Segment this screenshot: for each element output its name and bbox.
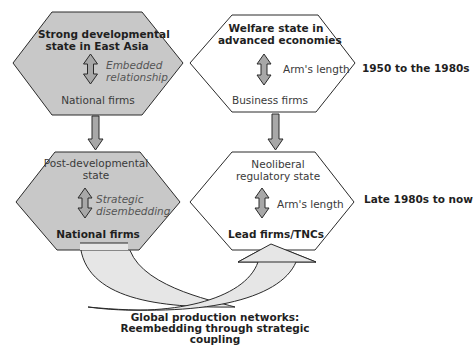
down-arrow-right — [268, 114, 283, 150]
neoliberal-title-2: regulatory state — [222, 170, 334, 182]
period-label-bottom: Late 1980s to now — [364, 193, 473, 205]
welfare-state-title-2: advanced economies — [218, 34, 334, 46]
developmental-state-title-1: Strong developmental — [38, 28, 156, 40]
down-arrow-left — [88, 116, 103, 150]
strategic-label-2: disembedding — [96, 205, 170, 217]
caption-line-3: coupling — [100, 333, 330, 345]
national-firms-top: National firms — [48, 94, 148, 106]
post-developmental-title-1: Post-developmental — [42, 157, 150, 169]
developmental-state-title-2: state in East Asia — [38, 40, 156, 52]
lead-firms-tncs: Lead firms/TNCs — [226, 228, 326, 240]
embedded-label-2: relationship — [106, 71, 168, 83]
neoliberal-title-1: Neoliberal — [222, 158, 334, 170]
national-firms-bottom: National firms — [52, 228, 144, 240]
armslength-label-bottom: Arm's length — [277, 198, 344, 210]
embedded-label-1: Embedded — [106, 59, 162, 71]
period-label-top: 1950 to the 1980s — [362, 62, 470, 74]
business-firms: Business firms — [230, 94, 310, 106]
armslength-label-top: Arm's length — [283, 63, 350, 75]
post-developmental-title-2: state — [42, 169, 150, 181]
welfare-state-title-1: Welfare state in — [218, 22, 334, 34]
strategic-label-1: Strategic — [96, 193, 143, 205]
